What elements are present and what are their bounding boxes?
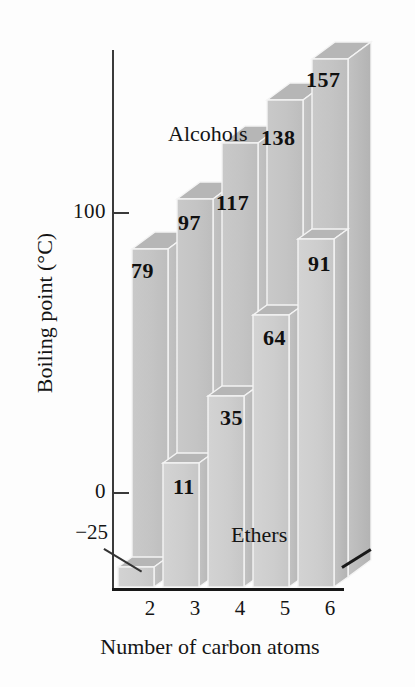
x-tick-label-6: 6 (315, 596, 345, 621)
series-label-alcohols: Alcohols (168, 121, 247, 147)
y-tick-mark-100 (113, 212, 129, 214)
bar-chart-3d-canvas (0, 0, 415, 687)
x-tick-label-5: 5 (270, 596, 300, 621)
y-axis-line (112, 50, 114, 590)
x-tick-label-4: 4 (225, 596, 255, 621)
bar-value-ethers-c4: 35 (220, 405, 243, 431)
y-tick-label-0: 0 (68, 481, 106, 502)
bar-value-ethers-c3: 11 (173, 474, 195, 500)
bar-value-ethers-c6: 91 (308, 251, 331, 277)
bar-value-alcohols-c3: 97 (178, 210, 201, 236)
y-tick-mark-0 (113, 492, 129, 494)
x-axis-line (112, 588, 344, 591)
bar-ethers-c6 (298, 229, 348, 587)
chart-figure: 79 97 117 138 157 11 35 64 91 Alcohols E… (0, 0, 415, 687)
x-tick-label-2: 2 (135, 596, 165, 621)
y-axis-title: Boiling point (°C) (32, 183, 58, 443)
x-axis-title: Number of carbon atoms (30, 634, 390, 660)
bar-value-alcohols-c4: 117 (216, 190, 249, 216)
x-tick-label-3: 3 (180, 596, 210, 621)
bar-value-alcohols-c2: 79 (131, 258, 154, 284)
annotation-label-minus25: −25 (48, 522, 108, 543)
bar-value-alcohols-c6: 157 (306, 67, 341, 93)
bar-value-ethers-c5: 64 (263, 325, 286, 351)
bar-value-alcohols-c5: 138 (261, 125, 296, 151)
series-label-ethers: Ethers (231, 522, 287, 548)
